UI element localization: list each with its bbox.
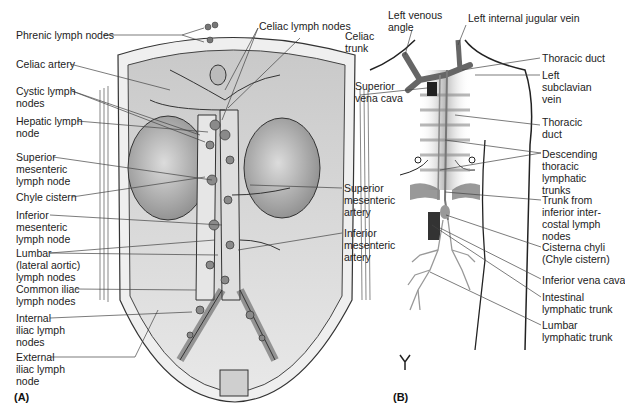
label-intestinal-lymphatic-trunk: Intestinal lymphatic trunk bbox=[542, 291, 613, 315]
label-external-iliac-lymph-node: External iliac lymph node bbox=[16, 351, 65, 387]
label-left-venous-angle: Left venous angle bbox=[388, 9, 442, 33]
label-inferior-mesenteric-artery: Inferior mesenteric artery bbox=[344, 227, 395, 263]
label-internal-iliac-lymph-nodes: Internal iliac lymph nodes bbox=[16, 312, 65, 348]
label-cisterna-chyli: Cisterna chyli (Chyle cistern) bbox=[542, 241, 610, 265]
panel-b-letter: (B) bbox=[393, 391, 408, 403]
panel-a-letter: (A) bbox=[14, 391, 29, 403]
label-superior-mesenteric-lymph-node: Superior mesenteric lymph node bbox=[16, 151, 70, 187]
label-superior-mesenteric-artery: Superior mesenteric artery bbox=[344, 182, 395, 218]
kidney-right bbox=[244, 118, 320, 218]
label-descending-thoracic-lymphatic-trunks: Descending thoracic lymphatic trunks bbox=[542, 148, 597, 196]
label-lumbar-lymph-nodes: Lumbar (lateral aortic) lymph nodes bbox=[16, 247, 80, 283]
label-phrenic-lymph-nodes: Phrenic lymph nodes bbox=[16, 29, 114, 41]
label-thoracic-duct-upper: Thoracic duct bbox=[542, 52, 605, 64]
label-inferior-mesenteric-lymph-node: Inferior mesenteric lymph node bbox=[16, 209, 70, 245]
label-celiac-artery: Celiac artery bbox=[16, 58, 75, 70]
label-cystic-lymph-nodes: Cystic lymph nodes bbox=[16, 85, 76, 109]
label-inferior-vena-cava: Inferior vena cava bbox=[542, 274, 625, 286]
label-hepatic-lymph-node: Hepatic lymph node bbox=[16, 115, 83, 139]
label-lumbar-lymphatic-trunk: Lumbar lymphatic trunk bbox=[542, 319, 613, 343]
kidney-left bbox=[128, 116, 208, 220]
label-chyle-cistern: Chyle cistern bbox=[16, 191, 77, 203]
label-common-iliac-lymph-nodes: Common iliac lymph nodes bbox=[16, 283, 80, 307]
label-celiac-trunk: Celiac trunk bbox=[345, 30, 374, 54]
label-celiac-lymph-nodes: Celiac lymph nodes bbox=[259, 20, 351, 32]
label-trunk-from-inferior-intercostal-lymph-nodes: Trunk from inferior inter- costal lymph … bbox=[542, 194, 601, 242]
label-left-subclavian-vein: Left subclavian vein bbox=[542, 69, 592, 105]
label-superior-vena-cava: Superior vena cava bbox=[355, 80, 403, 104]
label-thoracic-duct-lower: Thoracic duct bbox=[542, 116, 582, 140]
label-left-internal-jugular-vein: Left internal jugular vein bbox=[468, 12, 580, 24]
